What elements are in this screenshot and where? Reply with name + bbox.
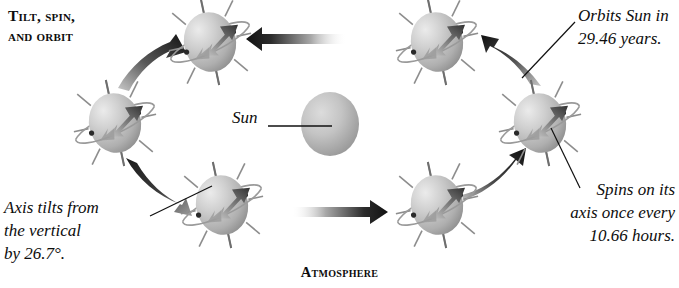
sun-label: Sun bbox=[232, 108, 258, 128]
annotation-spin-period: Spins on its axis once every 10.66 hours… bbox=[570, 178, 675, 247]
orbit-arrow-lower-right bbox=[462, 148, 526, 200]
sun-sphere bbox=[301, 92, 359, 156]
planet-left bbox=[65, 71, 165, 175]
orbit-arrow-upper-right bbox=[481, 35, 541, 86]
section-title: Tilt, spin, and orbit bbox=[8, 6, 75, 46]
annotation-orbit-period: Orbits Sun in 29.46 years. bbox=[578, 4, 669, 50]
figure-canvas: Tilt, spin, and orbit Sun Orbits Sun in … bbox=[0, 0, 679, 288]
planet-right bbox=[490, 71, 590, 175]
orbit-arrow-lower-left bbox=[126, 158, 192, 216]
annotation-axis-tilt: Axis tilts from the vertical by 26.7°. bbox=[4, 196, 99, 265]
orbit-arrow-bottom bbox=[292, 200, 388, 224]
orbit-period-leader-line bbox=[522, 22, 575, 78]
orbit-arrow-top bbox=[246, 27, 346, 51]
planet-bottom-right bbox=[387, 153, 487, 257]
planet-top-right bbox=[387, 0, 487, 94]
figure-caption: Atmosphere bbox=[0, 264, 679, 281]
